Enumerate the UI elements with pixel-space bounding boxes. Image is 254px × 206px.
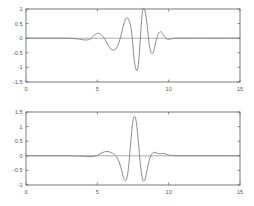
top-plot-xtick-label: 5 [96, 86, 99, 92]
bottom-plot-ytick-label: 1.5 [15, 109, 23, 115]
plot-panel-top: 10.50-0.5-1-1.5051015 [0, 0, 254, 103]
top-plot-xtick-label: 10 [166, 86, 172, 92]
bottom-plot-xtick-label: 15 [237, 189, 243, 195]
top-plot-xtick-label: 15 [237, 86, 243, 92]
bottom-plot-ytick-label: 0.5 [15, 138, 23, 144]
top-plot-curve-signal-1 [26, 8, 240, 71]
top-plot-ytick-label: 1 [19, 6, 22, 12]
plot-svg-bottom: 1.510.50-0.5-1051015 [0, 103, 254, 206]
bottom-plot-xtick-label: 10 [166, 189, 172, 195]
top-plot-ytick-label: 0 [19, 35, 22, 41]
plot-panel-bottom: 1.510.50-0.5-1051015 [0, 103, 254, 206]
bottom-plot-ytick-label: -1 [18, 182, 23, 188]
bottom-plot-xtick-label: 0 [24, 189, 27, 195]
bottom-plot-ytick-label: 0 [19, 153, 22, 159]
top-plot-ytick-label: -0.5 [13, 50, 23, 56]
top-plot-ytick-label: -1.5 [13, 79, 23, 85]
figure-container: 10.50-0.5-1-1.5051015 1.510.50-0.5-10510… [0, 0, 254, 206]
bottom-plot-ytick-label: 1 [19, 124, 22, 130]
bottom-plot-xtick-label: 5 [96, 189, 99, 195]
top-plot-ytick-label: 0.5 [15, 21, 23, 27]
bottom-plot-ytick-label: -0.5 [13, 167, 23, 173]
top-plot-ytick-label: -1 [18, 64, 23, 70]
plot-svg-top: 10.50-0.5-1-1.5051015 [0, 0, 254, 103]
top-plot-xtick-label: 0 [24, 86, 27, 92]
bottom-plot-curve-signal-2 [26, 116, 240, 181]
